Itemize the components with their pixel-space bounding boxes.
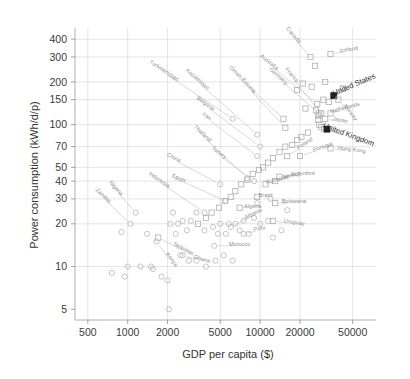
gridlines xyxy=(75,28,376,320)
country-label: China xyxy=(166,151,183,164)
data-point-circle xyxy=(221,253,226,258)
data-point-square xyxy=(239,182,244,187)
data-point-circle xyxy=(285,207,290,212)
country-label: Kenya xyxy=(165,251,180,268)
data-point-circle xyxy=(184,228,189,233)
country-label: Uruguay xyxy=(283,217,305,226)
y-axis-title: Power consumption (kWh/d/p) xyxy=(28,101,40,248)
data-point-circle xyxy=(255,132,260,137)
label-leader-line xyxy=(209,108,256,144)
data-point-square xyxy=(233,189,238,194)
country-label: Oman xyxy=(228,64,243,79)
data-point-circle xyxy=(230,258,235,263)
data-markers xyxy=(109,51,345,312)
data-point-square xyxy=(283,125,288,130)
axis-lines xyxy=(75,28,376,320)
country-label: Indonesia xyxy=(148,170,172,189)
data-point-square xyxy=(328,51,333,56)
data-point-square xyxy=(266,160,271,165)
data-point-square xyxy=(305,130,310,135)
data-point-square xyxy=(309,84,314,89)
country-label: Hong Kong xyxy=(338,144,367,154)
data-point-square xyxy=(209,210,214,215)
label-leader-line xyxy=(119,194,133,210)
country-label: Zambia xyxy=(95,187,113,205)
data-point-circle xyxy=(122,274,127,279)
data-point-circle xyxy=(170,210,175,215)
y-tick-label: 150 xyxy=(49,93,67,105)
x-tick-label: 5000 xyxy=(209,326,233,338)
y-tick-label: 40 xyxy=(55,175,67,187)
data-point-square xyxy=(294,88,299,93)
data-point-circle xyxy=(173,231,178,236)
country-label: Iran xyxy=(202,111,213,122)
data-point-circle xyxy=(210,224,215,229)
data-point-circle xyxy=(213,258,218,263)
data-point-circle xyxy=(202,210,207,215)
label-leader-line xyxy=(106,201,127,221)
x-axis-title: GDP per capita ($) xyxy=(182,348,274,360)
country-label: Tajikistan xyxy=(172,241,195,257)
data-point-square xyxy=(285,154,290,159)
data-point-square xyxy=(281,116,286,121)
y-tick-label: 30 xyxy=(55,192,67,204)
data-point-circle xyxy=(154,239,159,244)
label-leader-line xyxy=(251,91,282,125)
data-point-circle xyxy=(255,154,260,159)
data-point-square xyxy=(270,156,275,161)
data-point-square xyxy=(273,200,278,205)
x-tick-label: 1000 xyxy=(116,326,140,338)
scatter-plot: 500100020005000100002000050000 510203040… xyxy=(0,0,410,379)
country-label: Thailand xyxy=(193,124,213,143)
y-tick-label: 100 xyxy=(49,118,67,130)
data-point-square xyxy=(319,111,324,116)
country-label: Brazil xyxy=(259,192,273,198)
y-tick-labels: 5102030405070100150200300400 xyxy=(49,33,67,315)
data-point-circle xyxy=(194,210,199,215)
x-tick-label: 20000 xyxy=(285,326,314,338)
data-point-circle xyxy=(119,229,124,234)
x-tick-label: 2000 xyxy=(156,326,180,338)
country-label: United States xyxy=(331,71,377,97)
country-label: Japan xyxy=(332,115,348,124)
data-point-square xyxy=(237,205,242,210)
country-label: Canada xyxy=(285,26,303,45)
data-point-square xyxy=(312,63,317,68)
data-point-circle xyxy=(186,258,191,263)
country-label: Kazakhstan xyxy=(185,67,211,91)
y-tick-label: 70 xyxy=(55,140,67,152)
data-point-circle xyxy=(133,210,138,215)
data-point-circle xyxy=(188,218,193,223)
x-tick-label: 50000 xyxy=(338,326,367,338)
y-tick-label: 50 xyxy=(55,161,67,173)
leader-lines xyxy=(106,41,346,259)
country-label: Iceland xyxy=(339,45,358,54)
country-label: Bulgaria xyxy=(196,95,217,113)
data-point-circle xyxy=(215,231,220,236)
label-leader-line xyxy=(282,81,316,110)
data-point-circle xyxy=(241,231,246,236)
y-tick-label: 20 xyxy=(55,217,67,229)
data-point-square xyxy=(203,215,208,220)
data-point-circle xyxy=(202,228,207,233)
y-tick-label: 300 xyxy=(49,51,67,63)
country-label: Morocco xyxy=(229,241,250,247)
data-point-circle xyxy=(223,231,228,236)
data-point-circle xyxy=(144,231,149,236)
data-point-circle xyxy=(279,228,284,233)
country-label: Turkmenistan xyxy=(149,58,180,82)
data-point-circle xyxy=(212,243,217,248)
data-point-square xyxy=(270,218,275,223)
data-point-circle xyxy=(266,218,271,223)
data-point-circle xyxy=(246,231,251,236)
country-label: Egypt xyxy=(171,172,187,183)
y-tick-label: 10 xyxy=(55,260,67,272)
y-tick-label: 400 xyxy=(49,33,67,45)
data-point-circle xyxy=(270,235,275,240)
country-label: Estonia xyxy=(240,77,258,95)
data-point-circle xyxy=(166,307,171,312)
data-point-square xyxy=(250,171,255,176)
label-leader-line xyxy=(184,182,222,199)
data-point-circle xyxy=(109,270,114,275)
chart-figure: 500100020005000100002000050000 510203040… xyxy=(0,0,410,379)
